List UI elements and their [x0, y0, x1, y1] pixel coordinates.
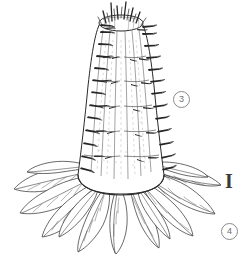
- plant-illustration: [0, 0, 243, 254]
- figure-marker-4[interactable]: 4: [221, 223, 238, 240]
- figure-marker-roman-one: I: [221, 170, 237, 192]
- figure-canvas: 3 I 4: [0, 0, 243, 254]
- plant-stem: [78, 2, 177, 195]
- figure-marker-3[interactable]: 3: [173, 91, 190, 108]
